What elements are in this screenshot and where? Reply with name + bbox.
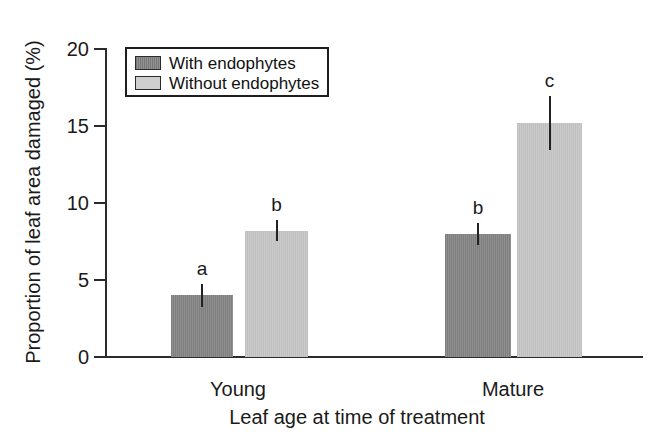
significance-label-young-without: b xyxy=(271,195,282,214)
y-axis-tick xyxy=(94,202,106,204)
legend-item-without-endophytes: Without endophytes xyxy=(135,73,321,93)
y-axis-tick xyxy=(94,279,106,281)
bar-mature-without xyxy=(517,123,582,357)
bar-young-without xyxy=(245,231,308,357)
bar-chart-figure: Proportion of leaf area damaged (%) Leaf… xyxy=(0,0,667,441)
error-bar-young-without xyxy=(276,220,278,242)
legend: With endophytes Without endophytes xyxy=(125,47,329,97)
x-axis-title: Leaf age at time of treatment xyxy=(229,406,485,429)
y-axis-tick xyxy=(94,48,106,50)
legend-item-with-endophytes: With endophytes xyxy=(135,53,321,73)
legend-swatch-with-endophytes xyxy=(135,56,161,70)
error-bar-mature-without xyxy=(549,96,551,150)
x-axis-label-young: Young xyxy=(210,378,266,401)
x-axis-label-mature: Mature xyxy=(482,378,544,401)
significance-label-mature-without: c xyxy=(545,71,555,90)
error-bar-young-with xyxy=(201,284,203,307)
y-axis-tick xyxy=(94,125,106,127)
y-axis-tick-label: 5 xyxy=(78,270,89,290)
y-axis-tick-label: 10 xyxy=(67,193,89,213)
y-axis-tick xyxy=(94,356,106,358)
legend-swatch-without-endophytes xyxy=(135,76,161,90)
error-bar-mature-with xyxy=(477,223,479,245)
y-axis-tick-label: 20 xyxy=(67,39,89,59)
legend-label-with-endophytes: With endophytes xyxy=(169,54,296,73)
y-axis-tick-label: 0 xyxy=(78,347,89,367)
significance-label-young-with: a xyxy=(197,259,208,278)
y-axis-title: Proportion of leaf area damaged (%) xyxy=(22,40,45,364)
significance-label-mature-with: b xyxy=(473,198,484,217)
y-axis-tick-label: 15 xyxy=(67,116,89,136)
bar-mature-with xyxy=(445,234,511,357)
legend-label-without-endophytes: Without endophytes xyxy=(169,74,319,93)
